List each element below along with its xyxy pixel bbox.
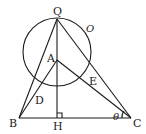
angle-arc-c [122, 111, 124, 118]
label-o: O [86, 23, 94, 34]
label-h: H [53, 120, 63, 133]
geometry-diagram: Q O A E D B H C θ [0, 0, 146, 134]
label-c: C [133, 117, 141, 130]
label-theta: θ [113, 111, 119, 122]
label-b: B [9, 117, 17, 130]
label-a: A [46, 52, 56, 65]
right-angle-marker-h [57, 113, 62, 118]
label-q: Q [53, 5, 62, 18]
label-e: E [89, 75, 97, 88]
label-d: D [35, 94, 44, 107]
